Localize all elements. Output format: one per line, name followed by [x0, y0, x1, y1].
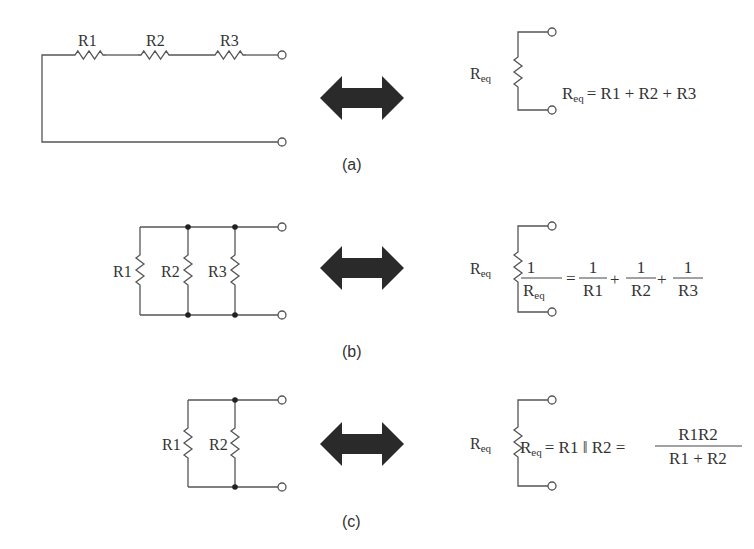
terminal-top — [278, 51, 286, 59]
equals-sign: = — [566, 269, 576, 288]
terminal-top — [548, 222, 556, 230]
terminal-top — [548, 28, 556, 36]
term-denominator: R3 — [678, 281, 698, 300]
junction-node — [185, 224, 191, 230]
terminal-top — [548, 396, 556, 404]
equation-two-parallel: Req= R1 ‖ R2 = R1R2 R1 + R2 — [520, 425, 742, 468]
junction-node — [185, 312, 191, 318]
label-r3: R3 — [208, 263, 227, 280]
terminal-bottom — [548, 106, 556, 114]
terminal-bottom — [548, 308, 556, 316]
panel-c-parallel-circuit: R1 R2 Req Req= R1 ‖ R2 = R1R2 R1 + R2 (c… — [162, 396, 742, 530]
terminal-bottom — [278, 311, 286, 319]
resistor-req — [514, 248, 522, 288]
fraction-denominator: R1 + R2 — [669, 449, 727, 468]
resistor-r2 — [138, 51, 172, 59]
label-r2: R2 — [161, 263, 180, 280]
label-req: Req — [470, 65, 492, 84]
caption-c: (c) — [342, 513, 361, 530]
term-numerator: 1 — [637, 258, 646, 277]
equivalence-arrow-icon — [320, 76, 404, 120]
lhs-numerator: 1 — [527, 258, 536, 277]
term-numerator: 1 — [589, 258, 598, 277]
term-denominator: R1 — [583, 281, 603, 300]
label-r3: R3 — [220, 32, 239, 49]
junction-node — [232, 224, 238, 230]
fraction-numerator: R1R2 — [678, 425, 718, 444]
equation-series: Req= R1 + R2 + R3 — [562, 84, 696, 104]
equivalence-arrow-icon — [320, 422, 404, 466]
resistor-req — [514, 53, 522, 93]
resistor-r1 — [72, 51, 106, 59]
label-req: Req — [470, 435, 492, 454]
resistor-equivalence-diagram: R1 R2 R3 Req Req= R1 + R2 + R3 (a) — [0, 0, 754, 549]
terminal-bottom — [278, 138, 286, 146]
junction-node — [232, 397, 238, 403]
resistor-r1 — [136, 251, 144, 291]
plus-sign: + — [657, 270, 667, 289]
lhs-and-middle: Req= R1 ‖ R2 = — [520, 438, 625, 458]
label-r2: R2 — [209, 436, 228, 453]
junction-node — [232, 484, 238, 490]
caption-a: (a) — [342, 156, 362, 173]
equation-parallel: 1 Req = 1 R1 + 1 R2 + 1 R3 — [521, 258, 703, 301]
caption-b: (b) — [342, 343, 362, 360]
label-r1: R1 — [113, 263, 132, 280]
junction-node — [232, 312, 238, 318]
req-wire-top — [518, 400, 548, 423]
label-req: Req — [470, 260, 492, 279]
panel-b-parallel-circuit: R1 R2 R3 Req 1 Req = 1 R1 + 1 R2 + 1 — [113, 222, 703, 360]
series-wire-left-and-bottom — [42, 55, 282, 142]
label-r1: R1 — [78, 32, 97, 49]
req-wire-bottom — [518, 463, 548, 486]
req-wire-top — [518, 32, 548, 53]
terminal-bottom — [548, 482, 556, 490]
terminal-top — [278, 223, 286, 231]
resistor-r2 — [231, 424, 239, 464]
req-wire-top — [518, 226, 548, 248]
plus-sign: + — [610, 270, 620, 289]
panel-a-series-circuit: R1 R2 R3 Req Req= R1 + R2 + R3 (a) — [42, 28, 696, 173]
equivalence-arrow-icon — [320, 246, 404, 290]
label-r2: R2 — [146, 32, 165, 49]
label-r1: R1 — [162, 436, 181, 453]
resistor-r3 — [231, 251, 239, 291]
lhs-denominator: Req — [523, 281, 545, 301]
term-numerator: 1 — [684, 258, 693, 277]
resistor-r2 — [184, 251, 192, 291]
req-wire-bottom — [518, 93, 548, 110]
terminal-top — [278, 396, 286, 404]
terminal-bottom — [278, 483, 286, 491]
resistor-r1 — [184, 424, 192, 464]
resistor-r3 — [212, 51, 246, 59]
term-denominator: R2 — [631, 281, 651, 300]
